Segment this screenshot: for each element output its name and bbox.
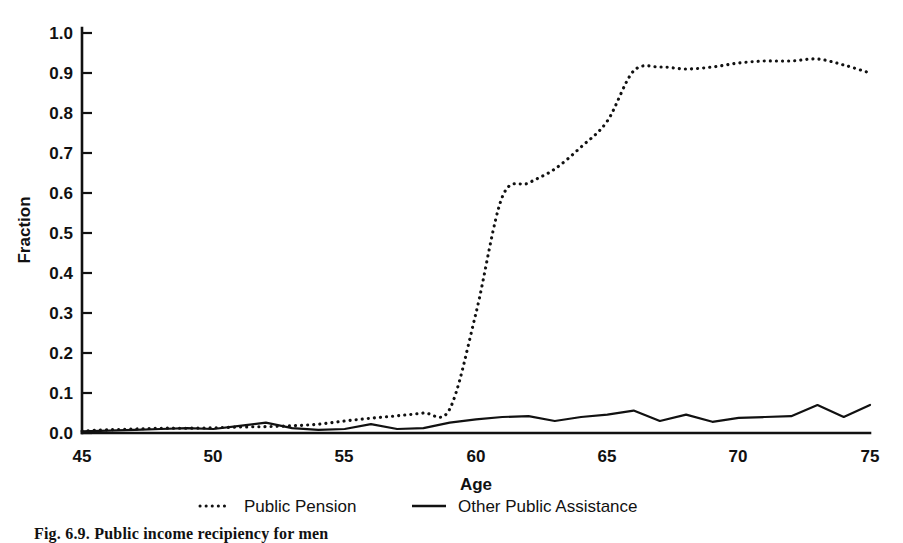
y-tick-label-2: 0.2	[49, 344, 73, 363]
figure-caption: Fig. 6.9. Public income recipiency for m…	[34, 525, 328, 543]
y-tick-label-5: 0.5	[49, 224, 73, 243]
x-tick-label-6: 75	[861, 447, 880, 466]
x-tick-label-1: 50	[204, 447, 223, 466]
x-tick-label-5: 70	[729, 447, 748, 466]
y-axis-title: Fraction	[15, 196, 34, 263]
y-tick-label-3: 0.3	[49, 304, 73, 323]
x-tick-label-4: 65	[598, 447, 617, 466]
y-tick-label-8: 0.8	[49, 104, 73, 123]
y-tick-label-6: 0.6	[49, 184, 73, 203]
y-tick-label-4: 0.4	[49, 264, 73, 283]
x-axis-title: Age	[460, 475, 492, 494]
x-tick-label-3: 60	[467, 447, 486, 466]
legend-label-public-pension: Public Pension	[244, 497, 356, 516]
x-tick-label-0: 45	[73, 447, 92, 466]
legend: Public Pension Other Public Assistance	[200, 497, 638, 516]
y-tick-label-7: 0.7	[49, 144, 73, 163]
y-tick-label-9: 0.9	[49, 64, 73, 83]
y-axis-ticks	[82, 33, 92, 433]
legend-label-other-public-assistance: Other Public Assistance	[458, 497, 638, 516]
y-tick-label-1: 0.1	[49, 384, 73, 403]
y-tick-label-10: 1.0	[49, 24, 73, 43]
x-tick-label-2: 55	[335, 447, 354, 466]
series-line-public-pension	[82, 59, 870, 431]
figure-container: 1.0 0.9 0.8 0.7 0.6 0.5 0.4 0.3 0.2 0.1 …	[0, 0, 903, 543]
line-chart: 1.0 0.9 0.8 0.7 0.6 0.5 0.4 0.3 0.2 0.1 …	[0, 0, 903, 543]
y-tick-label-0: 0.0	[49, 424, 73, 443]
series-line-other-public-assistance	[82, 405, 870, 431]
